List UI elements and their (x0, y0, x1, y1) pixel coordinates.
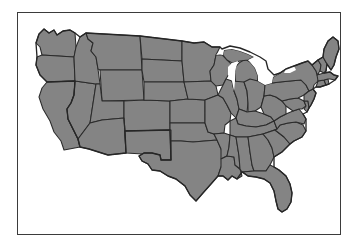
state-co[interactable] (124, 100, 170, 131)
state-wy[interactable] (100, 70, 144, 101)
state-ks[interactable] (170, 99, 205, 123)
state-polygons[interactable] (36, 29, 339, 212)
state-ne[interactable] (144, 82, 188, 101)
map-figure (0, 0, 358, 247)
state-sd[interactable] (142, 59, 184, 82)
united-states-map[interactable] (18, 13, 340, 234)
state-or[interactable] (36, 55, 75, 82)
state-fl[interactable] (242, 165, 292, 212)
map-border-frame (17, 12, 341, 235)
